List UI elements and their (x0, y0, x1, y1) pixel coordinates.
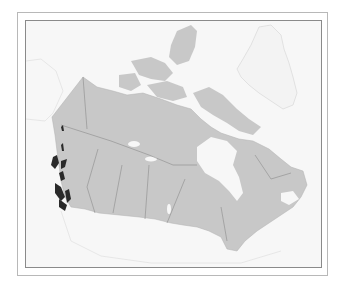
lake-winnipeg (167, 204, 171, 214)
arctic-islands-west (131, 57, 173, 81)
great-bear-lake (128, 141, 140, 147)
canada-map (26, 21, 322, 268)
canada-mainland (52, 77, 307, 251)
greenland (237, 25, 297, 109)
ellesmere-island (169, 25, 197, 65)
victoria-island (119, 73, 141, 91)
great-slave-lake (145, 157, 157, 162)
map-inner-frame (25, 20, 322, 268)
